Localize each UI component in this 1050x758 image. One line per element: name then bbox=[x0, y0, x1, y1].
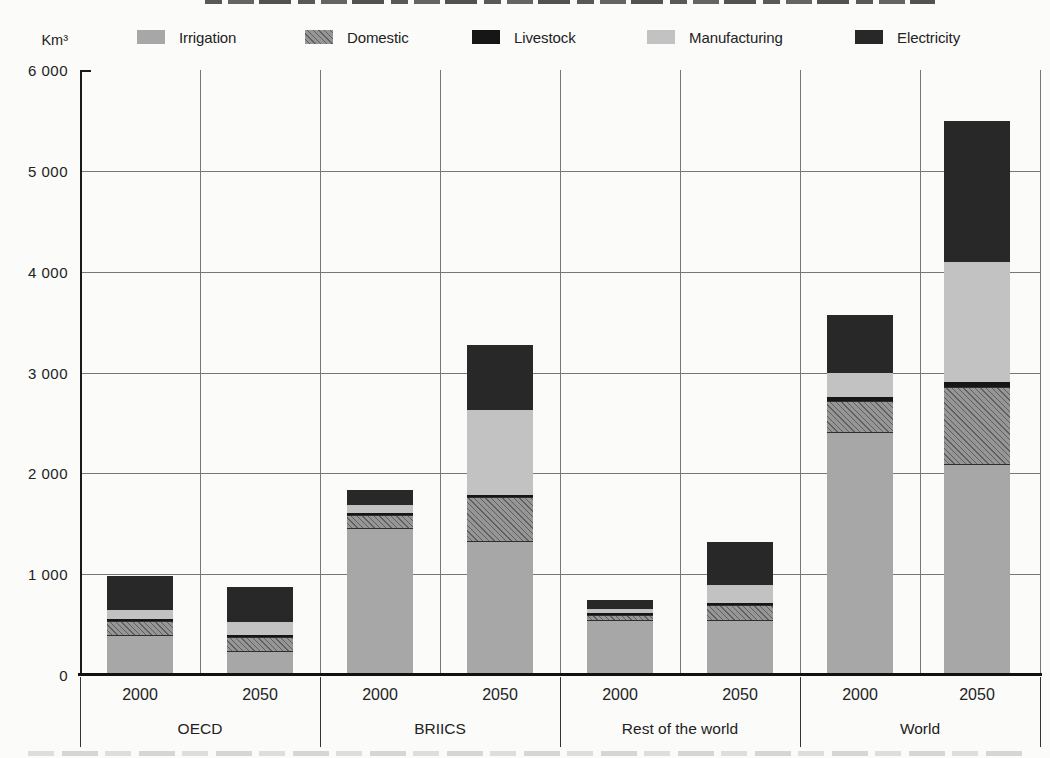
bar-oecd-2000 bbox=[107, 576, 173, 675]
bar-world-2050 bbox=[944, 121, 1010, 675]
segment-irrigation bbox=[944, 465, 1010, 675]
legend-label: Domestic bbox=[347, 29, 409, 46]
legend-label: Manufacturing bbox=[689, 29, 783, 46]
x-tick-year-label: 2000 bbox=[580, 686, 660, 704]
segment-domestic bbox=[107, 621, 173, 636]
segment-irrigation bbox=[107, 636, 173, 675]
segment-manufacturing bbox=[347, 505, 413, 513]
legend-item-irrigation: Irrigation bbox=[137, 29, 236, 45]
bar-rest-of-the-world-2000 bbox=[587, 600, 653, 675]
x-tick-year-label: 2050 bbox=[220, 686, 300, 704]
segment-irrigation bbox=[347, 529, 413, 675]
segment-manufacturing bbox=[227, 622, 293, 635]
segment-electricity bbox=[467, 345, 533, 410]
cropped-caption-artifact-bottom bbox=[28, 751, 1023, 756]
segment-domestic bbox=[347, 515, 413, 529]
group-label-briics: BRIICS bbox=[320, 720, 560, 738]
segment-domestic bbox=[227, 637, 293, 652]
bar-rest-of-the-world-2050 bbox=[707, 542, 773, 675]
segment-electricity bbox=[944, 121, 1010, 262]
y-axis-top-tick bbox=[80, 70, 91, 72]
segment-irrigation bbox=[467, 542, 533, 675]
y-tick-label: 4 000 bbox=[0, 263, 68, 280]
segment-manufacturing bbox=[707, 585, 773, 603]
y-tick-label: 1 000 bbox=[0, 566, 68, 583]
segment-manufacturing bbox=[467, 410, 533, 495]
segment-irrigation bbox=[227, 652, 293, 675]
segment-electricity bbox=[707, 542, 773, 585]
x-tick-year-label: 2000 bbox=[340, 686, 420, 704]
manufacturing-swatch-icon bbox=[647, 30, 675, 44]
segment-electricity bbox=[827, 315, 893, 373]
segment-domestic bbox=[944, 387, 1010, 465]
y-tick-label: 0 bbox=[0, 667, 68, 684]
horizontal-gridline bbox=[80, 171, 1040, 172]
segment-domestic bbox=[827, 401, 893, 433]
group-label-oecd: OECD bbox=[80, 720, 320, 738]
y-axis-unit-label: Km³ bbox=[0, 32, 68, 48]
legend-label: Livestock bbox=[514, 29, 576, 46]
horizontal-gridline bbox=[80, 373, 1040, 374]
segment-irrigation bbox=[587, 621, 653, 675]
livestock-swatch-icon bbox=[472, 30, 500, 44]
y-tick-label: 6 000 bbox=[0, 62, 68, 79]
segment-manufacturing bbox=[107, 610, 173, 619]
legend-item-livestock: Livestock bbox=[472, 29, 576, 45]
horizontal-gridline bbox=[80, 574, 1040, 575]
y-tick-label: 2 000 bbox=[0, 465, 68, 482]
group-separator bbox=[1040, 677, 1041, 747]
x-tick-year-label: 2000 bbox=[820, 686, 900, 704]
segment-irrigation bbox=[827, 433, 893, 675]
group-label-world: World bbox=[800, 720, 1040, 738]
horizontal-gridline bbox=[80, 272, 1040, 273]
legend-label: Irrigation bbox=[179, 29, 236, 46]
domestic-swatch-icon bbox=[305, 30, 333, 44]
legend-item-domestic: Domestic bbox=[305, 29, 409, 45]
legend-item-electricity: Electricity bbox=[855, 29, 960, 45]
segment-domestic bbox=[707, 605, 773, 621]
bar-briics-2050 bbox=[467, 345, 533, 675]
x-tick-year-label: 2000 bbox=[100, 686, 180, 704]
y-axis bbox=[80, 70, 82, 675]
bar-briics-2000 bbox=[347, 490, 413, 675]
x-tick-year-label: 2050 bbox=[700, 686, 780, 704]
segment-electricity bbox=[587, 600, 653, 609]
vertical-gridline bbox=[1040, 70, 1041, 675]
segment-manufacturing bbox=[827, 373, 893, 397]
y-tick-label: 3 000 bbox=[0, 364, 68, 381]
segment-manufacturing bbox=[944, 262, 1010, 382]
segment-domestic bbox=[467, 497, 533, 542]
water-demand-stacked-bar-chart: Km³ Irrigation Domestic Livestock Manufa… bbox=[0, 0, 1050, 758]
horizontal-gridline bbox=[80, 473, 1040, 474]
segment-electricity bbox=[227, 587, 293, 622]
cropped-caption-artifact-top bbox=[205, 0, 935, 4]
y-tick-label: 5 000 bbox=[0, 162, 68, 179]
x-tick-year-label: 2050 bbox=[460, 686, 540, 704]
segment-electricity bbox=[107, 576, 173, 610]
group-label-rest-of-the-world: Rest of the world bbox=[560, 720, 800, 738]
legend-item-manufacturing: Manufacturing bbox=[647, 29, 783, 45]
bar-oecd-2050 bbox=[227, 587, 293, 675]
x-axis-baseline bbox=[78, 673, 1042, 676]
x-tick-year-label: 2050 bbox=[937, 686, 1017, 704]
segment-electricity bbox=[347, 490, 413, 505]
bar-world-2000 bbox=[827, 315, 893, 675]
electricity-swatch-icon bbox=[855, 30, 883, 44]
segment-irrigation bbox=[707, 621, 773, 675]
irrigation-swatch-icon bbox=[137, 30, 165, 44]
legend-label: Electricity bbox=[897, 29, 960, 46]
